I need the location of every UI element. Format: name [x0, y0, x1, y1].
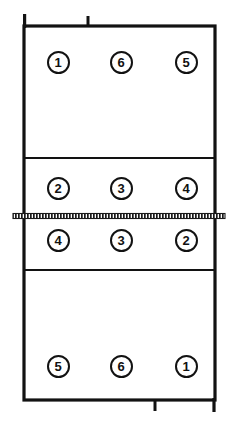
player-number: 4 — [54, 234, 61, 247]
player-marker-near-front-right[interactable]: 2 — [175, 229, 198, 252]
net-line — [13, 214, 225, 219]
player-marker-far-back-right[interactable]: 5 — [175, 51, 198, 74]
player-number: 3 — [117, 234, 124, 247]
player-marker-far-front-center[interactable]: 3 — [110, 177, 133, 200]
player-marker-near-front-left[interactable]: 4 — [47, 229, 70, 252]
player-number: 5 — [54, 360, 61, 373]
player-number: 4 — [182, 182, 189, 195]
player-marker-near-back-right[interactable]: 1 — [175, 355, 198, 378]
player-number: 2 — [182, 234, 189, 247]
volleyball-court-diagram: 1 6 5 2 3 4 4 3 2 5 6 1 — [0, 0, 232, 430]
player-number: 2 — [54, 182, 61, 195]
player-marker-far-front-right[interactable]: 4 — [175, 177, 198, 200]
player-marker-near-back-center[interactable]: 6 — [110, 355, 133, 378]
player-marker-far-back-left[interactable]: 1 — [47, 51, 70, 74]
player-number: 1 — [54, 56, 61, 69]
player-marker-far-back-center[interactable]: 6 — [110, 51, 133, 74]
player-marker-far-front-left[interactable]: 2 — [47, 177, 70, 200]
player-number: 6 — [117, 360, 124, 373]
player-number: 3 — [117, 182, 124, 195]
player-number: 5 — [182, 56, 189, 69]
player-number: 6 — [117, 56, 124, 69]
player-number: 1 — [182, 360, 189, 373]
player-marker-near-front-center[interactable]: 3 — [110, 229, 133, 252]
player-marker-near-back-left[interactable]: 5 — [47, 355, 70, 378]
